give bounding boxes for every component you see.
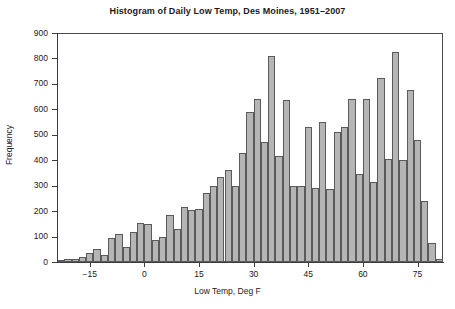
histogram-bar <box>188 210 195 262</box>
y-axis-tick <box>52 211 57 212</box>
histogram-bar <box>239 153 246 262</box>
histogram-bar <box>428 243 435 262</box>
x-axis-tick-label: 15 <box>179 269 219 279</box>
x-axis-tick-label: 45 <box>288 269 328 279</box>
y-axis-tick <box>52 135 57 136</box>
y-axis-tick <box>52 262 57 263</box>
histogram-bars <box>58 34 442 262</box>
histogram-bar <box>385 159 392 262</box>
histogram-bar <box>334 132 341 262</box>
histogram-bar <box>210 186 217 262</box>
histogram-bar <box>254 99 261 262</box>
x-axis-tick-label: 0 <box>124 269 164 279</box>
histogram-bar <box>93 249 100 262</box>
histogram-bar <box>86 253 93 262</box>
histogram-bar <box>407 90 414 262</box>
histogram-bar <box>246 112 253 262</box>
y-axis-tick-label: 100 <box>4 231 48 241</box>
histogram-bar <box>305 127 312 262</box>
histogram-bar <box>195 209 202 262</box>
histogram-bar <box>181 207 188 262</box>
x-axis-tick <box>363 262 364 267</box>
x-axis-tick-label: −15 <box>70 269 110 279</box>
histogram-bar <box>290 186 297 262</box>
histogram-bar <box>392 52 399 262</box>
histogram-bar <box>326 189 333 262</box>
histogram-bar <box>370 182 377 262</box>
x-axis-tick <box>199 262 200 267</box>
y-axis-line <box>57 33 58 263</box>
y-axis-tick-label: 900 <box>4 28 48 38</box>
x-axis-title: Low Temp, Deg F <box>0 286 455 296</box>
y-axis-tick <box>52 58 57 59</box>
x-axis-tick <box>254 262 255 267</box>
histogram-bar <box>261 142 268 262</box>
y-axis-title: Frequency <box>4 105 14 185</box>
histogram-bar <box>348 99 355 262</box>
histogram-bar <box>123 247 130 262</box>
histogram-bar <box>297 186 304 262</box>
histogram-bar <box>174 229 181 262</box>
histogram-bar <box>275 156 282 262</box>
histogram-bar <box>312 188 319 262</box>
x-axis-tick-label: 60 <box>343 269 383 279</box>
x-axis-line <box>57 262 444 263</box>
x-axis-tick-label: 75 <box>398 269 438 279</box>
histogram-bar <box>341 127 348 262</box>
histogram-bar <box>108 238 115 262</box>
histogram-figure: Histogram of Daily Low Temp, Des Moines,… <box>0 0 455 309</box>
histogram-bar <box>377 78 384 262</box>
y-axis-tick <box>52 109 57 110</box>
histogram-bar <box>283 100 290 262</box>
x-axis-tick-label: 30 <box>234 269 274 279</box>
chart-title: Histogram of Daily Low Temp, Des Moines,… <box>0 6 455 16</box>
x-axis-tick <box>90 262 91 267</box>
histogram-bar <box>144 224 151 262</box>
histogram-bar <box>225 170 232 262</box>
y-axis-tick-label: 0 <box>4 257 48 267</box>
y-axis-tick <box>52 33 57 34</box>
histogram-bar <box>356 174 363 262</box>
histogram-bar <box>115 234 122 263</box>
histogram-bar <box>421 201 428 262</box>
histogram-bar <box>130 232 137 262</box>
y-axis-tick <box>52 84 57 85</box>
histogram-bar <box>232 186 239 262</box>
y-axis-tick-label: 700 <box>4 78 48 88</box>
y-axis-tick-label: 200 <box>4 206 48 216</box>
histogram-bar <box>414 140 421 262</box>
histogram-bar <box>217 177 224 262</box>
histogram-bar <box>152 240 159 262</box>
histogram-bar <box>399 160 406 262</box>
y-axis-tick <box>52 186 57 187</box>
histogram-bar <box>268 56 275 262</box>
histogram-bar <box>137 223 144 262</box>
y-axis-tick-label: 800 <box>4 53 48 63</box>
y-axis-tick <box>52 160 57 161</box>
histogram-bar <box>101 255 108 262</box>
x-axis-tick <box>418 262 419 267</box>
y-axis-tick <box>52 237 57 238</box>
x-axis-tick <box>144 262 145 267</box>
histogram-bar <box>203 193 210 262</box>
histogram-bar <box>319 122 326 262</box>
histogram-bar <box>159 237 166 262</box>
x-axis-tick <box>308 262 309 267</box>
histogram-bar <box>363 99 370 262</box>
histogram-bar <box>166 215 173 262</box>
